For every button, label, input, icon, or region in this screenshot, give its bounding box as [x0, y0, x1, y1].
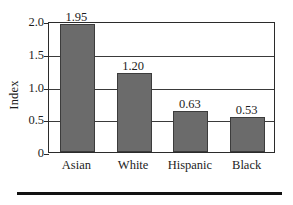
x-axis-category-label: Hispanic — [168, 159, 212, 172]
x-axis-category-label: Asian — [62, 159, 91, 172]
bar — [60, 24, 95, 152]
figure-bottom-rule — [17, 192, 282, 195]
plot-area — [48, 22, 275, 153]
bar — [230, 117, 265, 152]
x-axis-category-label: White — [118, 159, 149, 172]
bar-value-label: 1.20 — [122, 60, 144, 73]
x-axis-category-label: Black — [232, 159, 261, 172]
y-axis-tick-label: 1.0 — [14, 81, 44, 94]
y-axis-tick-label: 1.5 — [14, 49, 44, 62]
bar — [173, 111, 208, 152]
bar-value-label: 0.63 — [179, 98, 201, 111]
bar-chart-figure: Index 00.51.01.52.0 1.951.200.630.53 Asi… — [0, 0, 293, 205]
bar — [117, 73, 152, 152]
y-axis-tick-label: 0 — [14, 147, 44, 160]
y-axis-tick-label: 0.5 — [14, 114, 44, 127]
y-axis-tick-mark — [44, 23, 49, 24]
y-axis-tick-mark — [44, 154, 49, 155]
y-axis-tick-label: 2.0 — [14, 16, 44, 29]
bar-value-label: 1.95 — [65, 11, 87, 24]
bar-value-label: 0.53 — [236, 104, 258, 117]
